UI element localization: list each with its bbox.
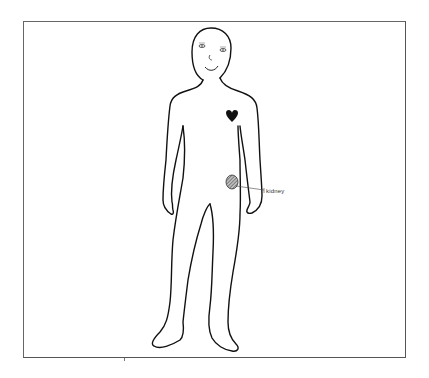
body-outline	[163, 80, 203, 214]
kidney-organ: kidney	[226, 175, 285, 194]
kidney-icon	[226, 175, 238, 189]
head-outline	[192, 28, 231, 80]
face	[199, 43, 226, 70]
left-torso-line	[152, 126, 210, 347]
kidney-label: kidney	[266, 188, 285, 194]
body-diagram: kidney	[0, 0, 429, 378]
mouth	[205, 66, 218, 70]
nose	[209, 55, 212, 60]
heart-icon	[226, 110, 238, 122]
right-leg-outline	[209, 126, 241, 351]
